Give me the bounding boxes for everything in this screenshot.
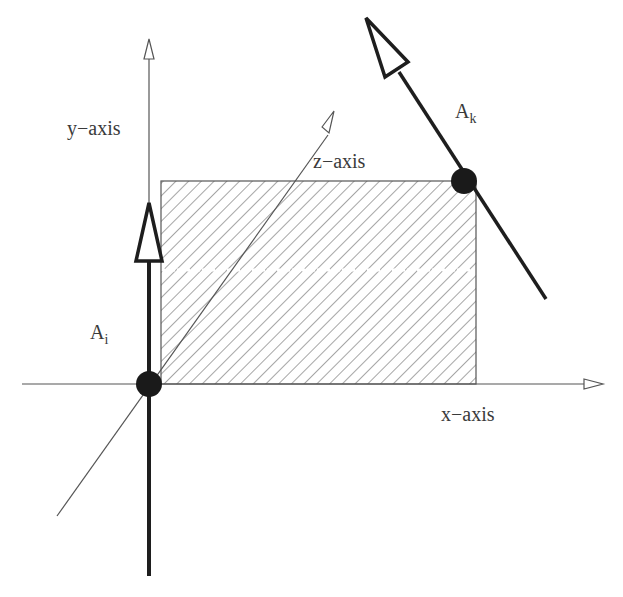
x-axis-arrowhead-icon [584,379,603,389]
vector-a-i-point [136,371,162,397]
y-axis-label: y−axis [67,117,121,140]
vector-a-k-point [451,168,477,194]
vector-a-i-label: Ai [90,321,108,347]
vector-a-k-label: Ak [455,100,476,126]
vector-a-k-arrowhead-icon [366,18,408,77]
vector-a-i [136,203,162,576]
coordinate-diagram: y−axis x−axis z−axis Ai Ak [0,0,623,597]
x-axis-label: x−axis [441,403,495,425]
z-axis-label: z−axis [313,150,366,172]
y-axis-arrowhead-icon [144,39,154,59]
vector-a-i-arrowhead-icon [136,203,162,261]
hatched-plane [161,181,476,384]
z-axis-arrowhead-icon [322,111,334,133]
